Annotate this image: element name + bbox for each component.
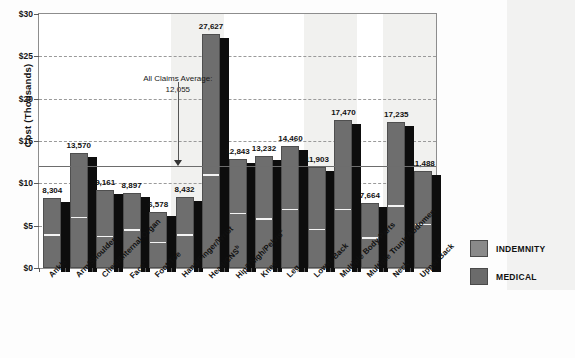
y-axis-tick-label: $20 (3, 94, 33, 104)
y-axis-tick-label: $10 (3, 178, 33, 188)
x-axis-tick-mark (383, 268, 384, 272)
bar[interactable] (70, 153, 88, 268)
bar-value-label: 13,570 (57, 141, 101, 150)
y-axis-tick-mark (34, 56, 39, 57)
bar-group[interactable] (70, 153, 97, 268)
x-axis-tick-mark (92, 268, 93, 272)
average-reference-line (39, 166, 436, 167)
bar-segment-divider (230, 213, 246, 215)
bar-segment-divider (150, 242, 166, 244)
bar-value-label: 6,578 (136, 200, 180, 209)
x-axis-tick-mark (65, 268, 66, 272)
y-axis-tick-label: $15 (3, 136, 33, 146)
bar[interactable] (308, 167, 326, 268)
legend-swatch (470, 268, 488, 285)
gridline (39, 56, 436, 57)
y-axis-tick-label: $30 (3, 9, 33, 19)
bar-value-label: 17,235 (374, 110, 418, 119)
average-arrow-head (174, 160, 182, 166)
bar-segment-divider (203, 174, 219, 176)
x-axis-tick-mark (171, 268, 172, 272)
plot-area: $0$5$10$15$20$25$30 8,30413,5709,1618,89… (38, 13, 437, 269)
y-axis-tick-label: $5 (3, 221, 33, 231)
bar-segment-divider (335, 209, 351, 211)
y-axis-tick-mark (34, 183, 39, 184)
bar-value-label: 8,897 (110, 181, 154, 190)
bar-value-label: 11,903 (295, 155, 339, 164)
bar[interactable] (43, 198, 61, 268)
x-axis-tick-mark (198, 268, 199, 272)
bar-value-label: 13,232 (242, 144, 286, 153)
legend-swatch (470, 240, 488, 257)
bar-value-label: 7,664 (348, 191, 392, 200)
bar-value-label: 27,627 (189, 22, 233, 31)
y-axis-tick-label: $0 (3, 263, 33, 273)
bar-segment-divider (124, 229, 140, 231)
x-axis-tick-mark (304, 268, 305, 272)
legend-label: MEDICAL (496, 272, 537, 282)
y-axis-tick-label: $25 (3, 51, 33, 61)
bar-segment-divider (44, 234, 60, 236)
y-axis-tick-mark (34, 226, 39, 227)
legend-item[interactable]: INDEMNITY (470, 240, 545, 257)
y-axis-tick-mark (34, 141, 39, 142)
x-axis-tick-mark (39, 268, 40, 272)
bar-segment-divider (388, 205, 404, 207)
bar-value-label: 17,470 (321, 108, 365, 117)
chart-legend: INDEMNITYMEDICAL (470, 240, 545, 296)
x-axis-tick-mark (330, 268, 331, 272)
y-axis-tick-mark (34, 99, 39, 100)
x-axis-tick-mark (277, 268, 278, 272)
gridline (39, 99, 436, 100)
bar-value-label: 14,460 (268, 134, 312, 143)
bar-group[interactable] (43, 198, 70, 268)
chart-container: Cost (Thousands) $0$5$10$15$20$25$30 8,3… (0, 0, 575, 358)
average-arrow-stem (178, 82, 179, 160)
legend-item[interactable]: MEDICAL (470, 268, 545, 285)
x-axis-tick-mark (118, 268, 119, 272)
bar-segment-divider (309, 229, 325, 231)
x-axis-tick-mark (410, 268, 411, 272)
bar-value-label: 8,304 (30, 186, 74, 195)
x-axis-tick-mark (357, 268, 358, 272)
bar-segment-divider (282, 209, 298, 211)
bar-segment-divider (177, 234, 193, 236)
bar-value-label: 8,432 (163, 185, 207, 194)
bar-segment-divider (71, 217, 87, 219)
y-axis-tick-mark (34, 14, 39, 15)
legend-label: INDEMNITY (496, 244, 545, 254)
bar-segment-divider (256, 218, 272, 220)
